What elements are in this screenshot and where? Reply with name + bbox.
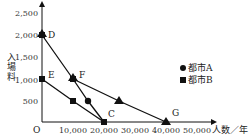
origin-label: O	[33, 125, 40, 135]
svg-text:2,000: 2,000	[15, 31, 38, 40]
svg-text:入: 入	[7, 52, 16, 62]
x-axis-label: 人数／年	[212, 124, 248, 135]
legend: 都市A 都市B	[180, 62, 213, 85]
svg-text:1,500: 1,500	[15, 53, 38, 62]
circle-marker	[85, 98, 91, 104]
svg-text:50,000: 50,000	[183, 126, 211, 135]
square-marker	[70, 98, 76, 104]
label-E: E	[48, 70, 55, 80]
label-D: D	[48, 30, 55, 40]
x-tick-labels: 10,000 20,000 30,000 40,000 50,000	[59, 126, 211, 135]
svg-text:20,000: 20,000	[90, 126, 118, 135]
svg-text:10,000: 10,000	[59, 126, 87, 135]
svg-text:30,000: 30,000	[121, 126, 149, 135]
svg-text:500: 500	[23, 97, 38, 106]
label-G: G	[172, 108, 179, 118]
chart: 2,500 2,000 1,500 1,000 500 入 場 料 O 10,0…	[0, 0, 252, 140]
svg-text:40,000: 40,000	[152, 126, 180, 135]
svg-text:料: 料	[7, 71, 16, 82]
label-C: C	[108, 109, 115, 119]
svg-text:都市B: 都市B	[188, 74, 213, 85]
point-D	[37, 29, 47, 38]
y-tick-labels: 2,500 2,000 1,500 1,000 500	[15, 9, 38, 106]
y-axis-label: 入 場 料	[7, 52, 16, 82]
label-F: F	[79, 70, 85, 80]
svg-text:2,500: 2,500	[15, 9, 38, 18]
svg-text:都市A: 都市A	[188, 62, 213, 73]
svg-text:1,000: 1,000	[15, 76, 38, 85]
svg-text:場: 場	[7, 61, 16, 72]
point-E	[39, 76, 45, 82]
point-C	[101, 119, 107, 125]
